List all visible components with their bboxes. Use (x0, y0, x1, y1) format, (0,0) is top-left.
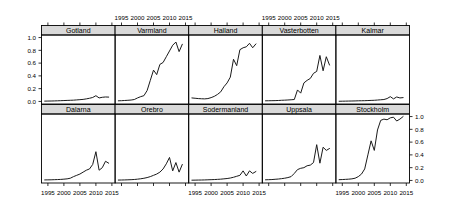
x-tick-label: 2005 (147, 14, 161, 21)
x-tick-label: 2010 (89, 189, 103, 196)
x-tick-label: 1995 (41, 189, 55, 196)
panel-title-varmland: Varmland (137, 27, 167, 34)
panel-title-halland: Halland (214, 27, 238, 34)
trellis-plot-figure: 1995200020052010201519952000200520102015… (0, 0, 451, 214)
y-tick-label: 0.6 (27, 59, 36, 66)
panel-title-uppsala: Uppsala (286, 106, 312, 114)
plot-canvas: 1995200020052010201519952000200520102015… (0, 0, 451, 214)
x-tick-label: 2010 (310, 14, 324, 21)
x-tick-label: 2000 (131, 14, 145, 21)
x-tick-label: 1995 (188, 189, 202, 196)
x-tick-label: 2015 (105, 189, 119, 196)
panel-title-gotland: Gotland (66, 27, 91, 34)
panel-title-sodermanland: Sodermanland (203, 106, 249, 113)
y-tick-label: 0.6 (415, 138, 424, 145)
x-tick-label: 2000 (351, 189, 365, 196)
x-tick-label: 2010 (236, 189, 250, 196)
y-tick-label: 1.0 (415, 113, 424, 120)
x-tick-label: 2005 (220, 189, 234, 196)
y-tick-label: 0.8 (27, 47, 36, 54)
x-tick-label: 1995 (115, 14, 129, 21)
y-tick-label: 1.0 (27, 34, 36, 41)
x-tick-label: 2015 (179, 14, 193, 21)
y-tick-label: 0.8 (415, 126, 424, 133)
bottom-x-axis-label-group: 1995200020052010201519952000200520102015… (41, 189, 414, 196)
x-tick-label: 2015 (326, 14, 340, 21)
y-tick-label: 0.4 (27, 72, 36, 79)
x-tick-label: 1995 (262, 14, 276, 21)
y-tick-label: 0.0 (415, 177, 424, 184)
x-tick-label: 2005 (294, 14, 308, 21)
x-tick-label: 1995 (335, 189, 349, 196)
y-tick-label: 0.4 (415, 151, 424, 158)
panel-title-stockholm: Stockholm (356, 106, 389, 113)
y-tick-label: 0.2 (27, 85, 36, 92)
x-tick-label: 2005 (73, 189, 87, 196)
x-tick-label: 2000 (278, 14, 292, 21)
x-tick-label: 2010 (163, 14, 177, 21)
x-tick-label: 2010 (383, 189, 397, 196)
x-tick-label: 2005 (367, 189, 381, 196)
x-tick-label: 2015 (399, 189, 413, 196)
panel-title-dalarna: Dalarna (66, 106, 91, 113)
x-tick-label: 2000 (204, 189, 218, 196)
x-tick-label: 2000 (57, 189, 71, 196)
y-tick-label: 0.0 (27, 98, 36, 105)
panel-title-orebro: Orebro (141, 106, 163, 113)
panel-title-kalmar: Kalmar (362, 27, 385, 34)
y-tick-label: 0.2 (415, 164, 424, 171)
x-tick-label: 2015 (252, 189, 266, 196)
panel-title-vasterbotten: Vasterbotten (280, 27, 319, 34)
